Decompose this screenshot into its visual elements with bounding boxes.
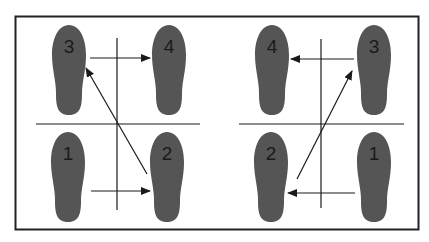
svg-text:4: 4	[164, 36, 175, 57]
foot-1: 1	[357, 132, 391, 222]
right-panel: 4 3 2 1	[239, 25, 404, 222]
foot-2: 2	[150, 132, 184, 222]
svg-text:2: 2	[162, 143, 173, 164]
footwork-diagram: 3 4 1 2 4 3 2 1	[0, 0, 429, 242]
foot-4: 4	[152, 25, 186, 115]
svg-text:1: 1	[369, 143, 380, 164]
svg-text:1: 1	[63, 143, 74, 164]
foot-3: 3	[52, 25, 86, 115]
foot-4: 4	[255, 25, 289, 115]
arrow-2-to-3	[297, 71, 352, 179]
svg-text:2: 2	[266, 143, 277, 164]
foot-3: 3	[357, 25, 391, 115]
svg-text:3: 3	[369, 36, 380, 57]
foot-2: 2	[254, 132, 288, 222]
svg-text:3: 3	[64, 36, 75, 57]
left-panel: 3 4 1 2	[36, 25, 200, 222]
foot-1: 1	[51, 132, 85, 222]
svg-text:4: 4	[267, 36, 278, 57]
